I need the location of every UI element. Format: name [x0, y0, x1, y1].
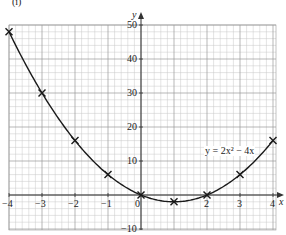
x-tick-label: −2 — [68, 199, 79, 209]
y-tick-label: −10 — [121, 224, 137, 234]
x-tick-label: −1 — [101, 199, 112, 209]
x-tick-label: 3 — [237, 199, 242, 209]
part-label: (i) — [12, 0, 21, 7]
grid-minor — [9, 25, 276, 230]
y-tick-label: 50 — [127, 20, 137, 30]
y-tick-label: 20 — [127, 122, 137, 132]
y-tick-label: 30 — [127, 88, 137, 98]
y-tick-label: 40 — [127, 54, 137, 64]
equation-label: y = 2x² − 4x — [204, 146, 255, 156]
x-tick-label: −4 — [2, 199, 13, 209]
x-tick-label: −3 — [35, 199, 46, 209]
grid-major — [9, 25, 276, 230]
x-tick-label: 2 — [204, 199, 209, 209]
y-tick-label: 10 — [127, 156, 137, 166]
x-axis-label: x — [279, 197, 283, 207]
x-tick-label: 4 — [270, 199, 275, 209]
x-tick-label: 0 — [135, 199, 140, 209]
